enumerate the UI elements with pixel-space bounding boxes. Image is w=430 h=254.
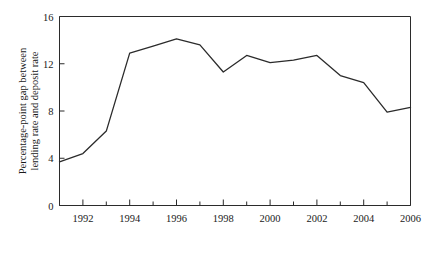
x-tick-label-1998: 1998 [213,213,234,224]
line-chart: 19921994199619982000200220042006 0481216… [0,0,430,254]
y-axis-title-line-2: lending rate and deposit rate [29,51,40,170]
y-tick-label-12: 12 [43,59,54,70]
x-tick-label-2002: 2002 [306,213,327,224]
x-tick-label-2000: 2000 [260,213,281,224]
y-tick-label-8: 8 [48,106,53,117]
y-axis-title-line-1: Percentage-point gap between [17,47,28,174]
y-tick-label-16: 16 [43,12,54,23]
x-tick-label-2006: 2006 [400,213,421,224]
x-tick-label-1996: 1996 [166,213,187,224]
y-tick-label-0: 0 [48,201,53,212]
y-tick-label-4: 4 [48,153,54,164]
x-tick-label-1992: 1992 [72,213,93,224]
chart-figure: 19921994199619982000200220042006 0481216… [0,0,430,254]
x-tick-label-2004: 2004 [353,213,375,224]
x-tick-label-1994: 1994 [119,213,141,224]
y-axis-title: Percentage-point gap betweenlending rate… [17,47,40,174]
